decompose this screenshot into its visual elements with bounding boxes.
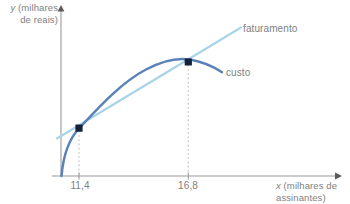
series-label-custo: custo — [226, 67, 250, 79]
chart-plot-area — [0, 0, 350, 204]
y-axis-label-line2: de reais) — [20, 14, 58, 25]
y-axis-label-line1-rest: (milhares — [15, 2, 58, 13]
x-axis-label-line1-rest: (milhares de — [281, 180, 337, 191]
intersection-marker-16-8 — [185, 58, 192, 65]
chart-figure: y (milhares de reais) x (milhares de ass… — [0, 0, 350, 204]
series-label-faturamento: faturamento — [243, 23, 297, 35]
y-axis-arrowhead — [58, 5, 65, 11]
x-axis-label: x (milhares de assinantes) — [276, 180, 350, 203]
x-tick-label-11-4: 11,4 — [64, 180, 96, 192]
x-tick-label-16-8: 16,8 — [172, 180, 204, 192]
y-axis-label: y (milhares de reais) — [2, 2, 58, 25]
intersection-marker-11-4 — [75, 125, 82, 132]
x-axis-label-line2: assinantes) — [276, 192, 326, 203]
custo-curve — [62, 59, 223, 176]
x-axis-arrowhead — [335, 173, 342, 180]
